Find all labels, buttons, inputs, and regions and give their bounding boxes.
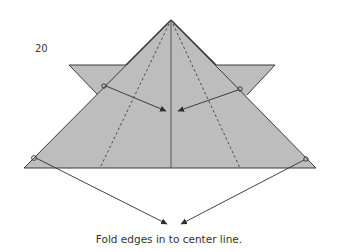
instruction-caption: Fold edges in to center line. bbox=[0, 233, 338, 245]
step-number: 20 bbox=[35, 43, 48, 54]
origami-diagram bbox=[0, 0, 338, 252]
main-triangle bbox=[24, 20, 316, 168]
